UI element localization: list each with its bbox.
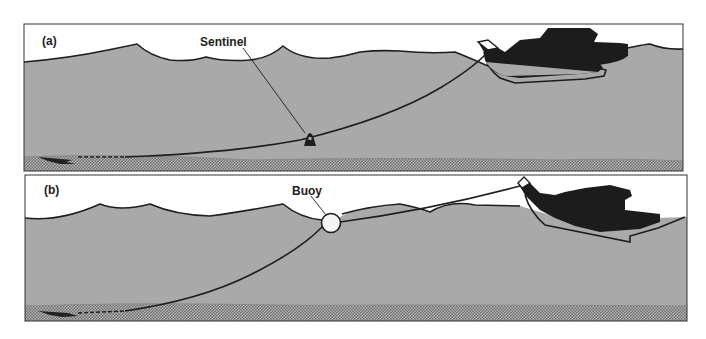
sentinel-label: Sentinel [200, 35, 247, 49]
seabed-b [25, 304, 687, 321]
panel-a: (a) Sentinel [24, 24, 683, 171]
buoy-label: Buoy [292, 184, 322, 198]
panel-b: (b) Buoy [25, 175, 687, 321]
panel-a-label: (a) [42, 34, 57, 48]
panel-b-label: (b) [44, 183, 59, 197]
buoy-icon [322, 214, 341, 233]
anchoring-diagram: (a) Sentinel (b) Buoy [0, 0, 706, 339]
